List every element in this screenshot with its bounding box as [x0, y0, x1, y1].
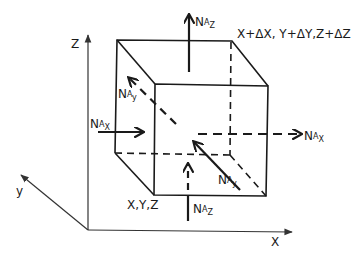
y-axis-label: y	[16, 184, 23, 198]
hidden-edge	[230, 155, 266, 196]
flux-nay-in-label: NAy	[218, 173, 237, 188]
cube-front-face	[154, 84, 268, 196]
far-corner-label: X+ΔX, Y+ΔY,Z+ΔZ	[237, 27, 351, 41]
control-volume-diagram: Z X y NAX NAX	[0, 0, 353, 257]
x-axis-label: X	[271, 235, 279, 249]
flux-nax-in-label: NAX	[90, 117, 110, 132]
hidden-edge	[230, 42, 231, 155]
y-axis	[21, 175, 88, 230]
hidden-edge	[115, 153, 230, 155]
flux-naz-in-label: NAZ	[193, 202, 213, 217]
flux-naz-out-label: NAZ	[195, 15, 215, 30]
flux-arrows	[98, 15, 301, 221]
x-axis	[88, 230, 292, 232]
flux-nax-out-label: NAX	[304, 129, 324, 144]
cube	[115, 40, 268, 196]
flux-labels: NAX NAX NAy NAy NAZ NAZ	[90, 15, 324, 217]
flux-nay-out-label: NAy	[118, 87, 137, 102]
cube-back-left-edges	[115, 40, 268, 153]
z-axis-label: Z	[71, 37, 79, 51]
cube-edge	[115, 153, 154, 195]
origin-corner-label: X,Y,Z	[127, 198, 158, 212]
cube-edge	[117, 40, 155, 84]
